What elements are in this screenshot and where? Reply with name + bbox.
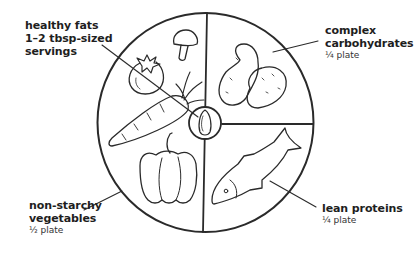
vegetables-title-line2: vegetables (29, 212, 102, 225)
vegetables-portion: ½ plate (29, 225, 102, 236)
fats-title-line1: healthy fats (25, 19, 112, 32)
vegetables-title-line1: non-starchy (29, 199, 102, 212)
carbs-portion: ¼ plate (325, 50, 414, 61)
carbs-label: complex carbohydrates ¼ plate (325, 24, 414, 61)
fats-center-circle (189, 107, 221, 139)
proteins-label: lean proteins ¼ plate (322, 202, 403, 226)
proteins-leader-line (270, 181, 316, 207)
vegetables-label: non-starchy vegetables ½ plate (29, 199, 102, 236)
bell-pepper-icon (140, 133, 197, 203)
proteins-portion: ¼ plate (322, 215, 403, 226)
potatoes-icon (219, 44, 286, 108)
carrot-icon (109, 72, 204, 146)
tomato-icon (129, 55, 163, 94)
carbs-title-line2: carbohydrates (325, 37, 414, 50)
fats-title-line2: 1–2 tbsp-sized (25, 32, 112, 45)
proteins-title-line1: lean proteins (322, 202, 403, 215)
mushroom-icon (174, 30, 198, 60)
carbs-title-line1: complex (325, 24, 414, 37)
fats-title-line3: servings (25, 45, 112, 58)
fats-label: healthy fats 1–2 tbsp-sized servings (25, 19, 112, 58)
fats-leader-line (102, 45, 198, 117)
